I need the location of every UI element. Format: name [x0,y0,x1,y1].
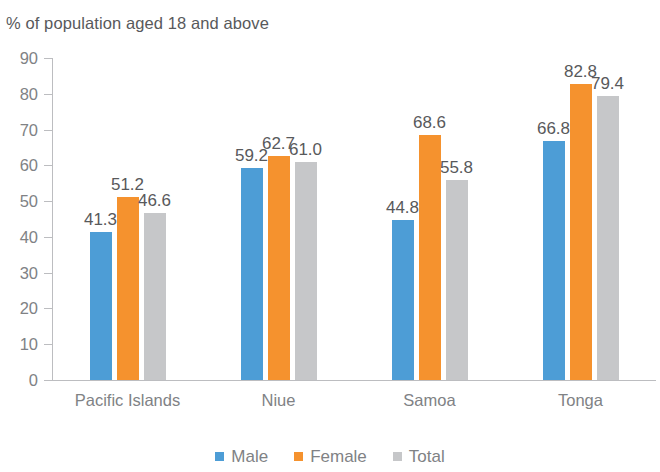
y-axis-tick-mark [44,273,52,274]
category-label: Tonga [501,392,660,409]
legend-item[interactable]: Male [215,448,268,465]
y-axis-tick-label: 60 [0,157,38,174]
legend-swatch-icon [393,452,402,461]
bar-value-label: 46.6 [131,192,179,209]
y-axis-tick-label: 40 [0,229,38,246]
bar-chart: % of population aged 18 and above 010203… [0,0,660,472]
y-axis-tick-label: 20 [0,300,38,317]
category-label: Pacific Islands [48,392,208,409]
bar [144,213,166,380]
category-label: Niue [199,392,359,409]
legend-label: Male [231,448,268,465]
legend-swatch-icon [294,452,303,461]
bar [597,96,619,380]
bar [90,232,112,380]
y-axis-tick-label: 70 [0,122,38,139]
y-axis-tick-mark [44,308,52,309]
legend-item[interactable]: Female [294,448,367,465]
bar-value-label: 51.2 [104,176,152,193]
y-axis-tick-mark [44,58,52,59]
y-axis-tick-label: 50 [0,193,38,210]
y-axis-tick-mark [44,344,52,345]
legend-item[interactable]: Total [393,448,445,465]
bar-value-label: 68.6 [406,114,454,131]
legend-label: Total [409,448,445,465]
y-axis-line [52,58,53,381]
bar [241,168,263,380]
y-axis-tick-mark [44,94,52,95]
bar [295,162,317,380]
bar [392,220,414,380]
chart-legend: MaleFemaleTotal [0,448,660,465]
bar [268,156,290,380]
bar-value-label: 55.8 [433,159,481,176]
y-axis-tick-mark [44,237,52,238]
y-axis-tick-mark [44,130,52,131]
y-axis-tick-label: 10 [0,336,38,353]
legend-swatch-icon [215,452,224,461]
bar [543,141,565,380]
legend-label: Female [310,448,367,465]
category-label: Samoa [350,392,510,409]
x-axis-line [52,380,656,381]
bar [117,197,139,380]
bar [570,84,592,380]
bar-value-label: 61.0 [282,141,330,158]
y-axis-tick-mark [44,380,52,381]
bar [446,180,468,380]
y-axis-tick-label: 90 [0,50,38,67]
bar-value-label: 79.4 [584,75,632,92]
y-axis-tick-mark [44,201,52,202]
chart-title: % of population aged 18 and above [6,14,269,33]
y-axis-tick-mark [44,165,52,166]
y-axis-tick-label: 0 [0,372,38,389]
y-axis-tick-label: 30 [0,265,38,282]
y-axis-tick-label: 80 [0,86,38,103]
